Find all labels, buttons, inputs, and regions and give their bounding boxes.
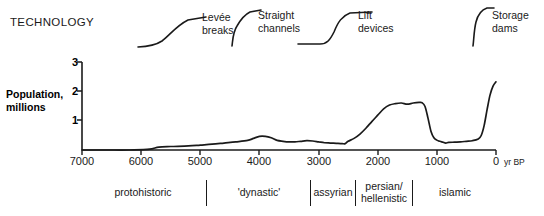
period-divider-2 — [310, 180, 311, 206]
x-tick-label-6000: 6000 — [119, 155, 163, 167]
period-divider-3 — [355, 180, 356, 206]
period-label-dynastic: 'dynastic' — [238, 186, 281, 198]
population-plot — [0, 0, 544, 216]
x-tick-label-5000: 5000 — [178, 155, 222, 167]
x-axis-unit-label: yr BP — [504, 157, 525, 167]
x-tick-label-3000: 3000 — [297, 155, 341, 167]
x-tick-label-1000: 1000 — [415, 155, 459, 167]
period-dynastic-line1: 'dynastic' — [238, 186, 281, 198]
population-technology-figure: TECHNOLOGY Levée breaks Straight channel… — [0, 0, 544, 216]
period-label-persian-hellenistic: persian/ hellenistic — [361, 180, 407, 204]
period-divider-1 — [206, 180, 207, 206]
period-label-protohistoric: protohistoric — [114, 186, 171, 198]
x-tick-label-4000: 4000 — [237, 155, 281, 167]
period-assyrian-line1: assyrian — [313, 186, 352, 198]
period-persian-hellenistic-line2: hellenistic — [361, 192, 407, 204]
period-persian-hellenistic-line1: persian/ — [365, 180, 402, 192]
period-label-assyrian: assyrian — [313, 186, 352, 198]
period-protohistoric-line1: protohistoric — [114, 186, 171, 198]
period-islamic-line1: islamic — [439, 186, 471, 198]
x-tick-label-2000: 2000 — [356, 155, 400, 167]
period-label-islamic: islamic — [439, 186, 471, 198]
population-curve — [82, 82, 496, 150]
x-tick-label-7000: 7000 — [60, 155, 104, 167]
period-divider-4 — [412, 180, 413, 206]
